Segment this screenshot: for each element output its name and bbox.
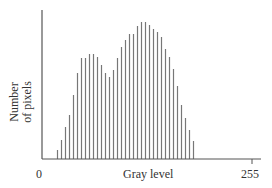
histogram-chart: Number of pixels 0 Gray level 255 [0, 0, 272, 188]
plot-area [0, 0, 272, 188]
x-axis-label: Gray level [123, 167, 173, 182]
y-axis-label-line2: of pixels [21, 81, 34, 123]
y-axis-label: Number of pixels [4, 62, 38, 142]
histogram-bars [58, 22, 194, 159]
x-tick-label-255: 255 [241, 167, 259, 182]
x-tick-label-0: 0 [36, 167, 42, 182]
